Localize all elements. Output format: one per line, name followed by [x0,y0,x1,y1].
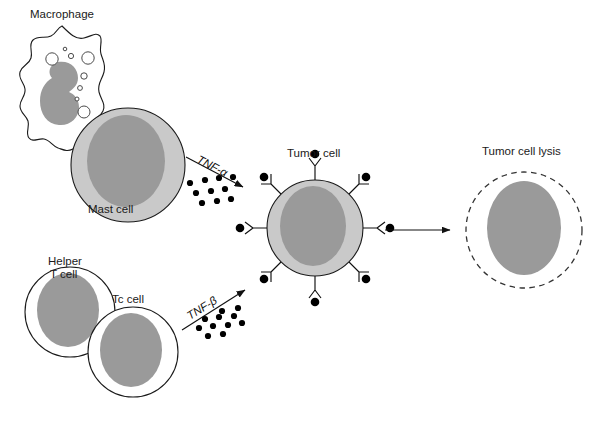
macrophage-vacuole [46,53,58,65]
macrophage-vacuole [78,106,90,118]
helper-t-cell-nucleus [37,273,99,347]
tumor-cell-label: Tumor cell [287,147,340,159]
tumor-cell-nucleus [280,186,346,266]
diagram-canvas: Macrophage Mast cell Helper T cell Tc ce… [0,0,599,430]
immunology-diagram-svg: Macrophage Mast cell Helper T cell Tc ce… [0,0,599,430]
tc-cell-label: Tc cell [112,293,144,305]
macrophage-vacuole [82,52,94,64]
macrophage-vacuole [75,97,79,101]
macrophage-vacuole [68,53,73,58]
lysis-nucleus [487,181,561,275]
tc-cell [88,307,178,397]
tc-cell-nucleus [100,313,162,387]
tumor-cell-lysis-label: Tumor cell lysis [482,145,561,157]
macrophage-vacuole [81,73,87,79]
tumor-cell [267,180,363,276]
mast-cell-label: Mast cell [88,203,133,215]
macrophage-vacuole [63,47,67,51]
mast-cell-nucleus [87,115,165,207]
macrophage-label: Macrophage [30,8,94,20]
helper-t-cell-label-line1: Helper [48,255,82,267]
helper-t-cell-label-line2: T cell [50,268,77,280]
macrophage-vacuole [78,86,83,91]
tumor-cell-lysis [466,172,582,288]
